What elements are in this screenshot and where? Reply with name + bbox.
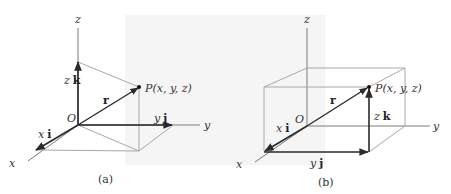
x-axis-label-b: x <box>236 158 243 171</box>
yj-label-a: yj <box>153 112 167 125</box>
x-axis-a <box>28 125 78 161</box>
zk-label-b: zk <box>373 110 391 123</box>
r-label-a: r <box>103 94 109 107</box>
y-axis-label-a: y <box>203 119 211 132</box>
point-p-a <box>137 85 141 89</box>
point-label-b: P(x, y, z) <box>374 82 422 95</box>
caption-b: (b) <box>318 176 334 189</box>
r-label-b: r <box>330 94 336 107</box>
z-axis-label-a: z <box>74 13 81 26</box>
z-axis-label-b: z <box>303 13 310 26</box>
caption-a: (a) <box>98 173 113 186</box>
yj-label-b: yj <box>309 157 323 170</box>
x-axis-label-a: x <box>9 157 16 170</box>
figure-canvas: z y x O P(x, y, z) r zk yj xi (a) <box>0 0 451 194</box>
xi-to-proj-line-a <box>36 150 139 151</box>
point-label-a: P(x, y, z) <box>144 82 192 95</box>
point-p-b <box>367 85 371 89</box>
zk-label-a: zk <box>63 74 81 87</box>
origin-label-b: O <box>295 113 304 126</box>
y-axis-label-b: y <box>432 120 440 133</box>
origin-label-a: O <box>67 112 76 125</box>
xi-label-a: xi <box>38 128 51 141</box>
